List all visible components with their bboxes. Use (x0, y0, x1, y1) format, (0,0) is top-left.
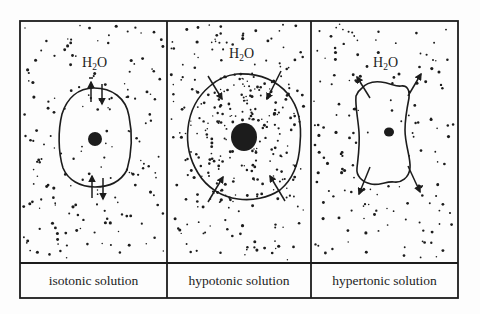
panel-label-isotonic: isotonic solution (49, 273, 139, 288)
osmosis-diagram: H2O isotonic solution H2O hypotonic solu… (0, 0, 480, 314)
panel-label-hypotonic: hypotonic solution (189, 273, 290, 288)
cell-nucleus (384, 128, 394, 137)
arrow-icon (408, 166, 420, 192)
h2o-label: H2O (82, 55, 107, 72)
panel-isotonic: H2O isotonic solution (49, 55, 139, 288)
cell-nucleus (88, 132, 102, 146)
h2o-label: H2O (229, 46, 254, 63)
cell-membrane (356, 82, 410, 185)
panel-hypertonic: H2O hypertonic solution (332, 55, 437, 288)
panel-label-hypertonic: hypertonic solution (332, 273, 437, 288)
panel-hypotonic: H2O hypotonic solution (187, 46, 300, 288)
arrow-icon (357, 77, 370, 98)
cell-nucleus (231, 123, 257, 151)
h2o-label: H2O (373, 55, 398, 72)
arrow-icon (408, 74, 421, 96)
